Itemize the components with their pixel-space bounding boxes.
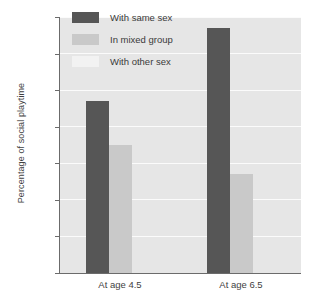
legend-entry-mixed-group: In mixed group bbox=[72, 28, 173, 50]
bar bbox=[86, 101, 109, 273]
y-tick-mark bbox=[55, 17, 60, 18]
legend-swatch-icon bbox=[72, 34, 99, 45]
x-axis-line bbox=[59, 273, 301, 274]
y-tick-mark bbox=[55, 200, 60, 201]
x-tick-label-group-1: At age 6.5 bbox=[181, 279, 301, 290]
bar-chart-figure: Percentage of social playtime 7060504030… bbox=[0, 0, 309, 295]
legend-label: With same sex bbox=[110, 12, 172, 23]
y-tick-mark bbox=[55, 90, 60, 91]
x-tick-label-text: At age 4.5 bbox=[98, 279, 141, 290]
gridline bbox=[60, 90, 301, 91]
legend-label: In mixed group bbox=[110, 34, 173, 45]
legend-swatch-icon bbox=[72, 56, 99, 67]
legend-entry-same-sex: With same sex bbox=[72, 6, 173, 28]
x-tick-label-text: At age 6.5 bbox=[219, 279, 262, 290]
y-axis-title: Percentage of social playtime bbox=[16, 48, 26, 238]
bar bbox=[109, 145, 132, 273]
legend-entry-other-sex: With other sex bbox=[72, 50, 173, 72]
y-tick-mark bbox=[55, 163, 60, 164]
y-tick-mark bbox=[55, 54, 60, 55]
x-tick-label-group-0: At age 4.5 bbox=[60, 279, 180, 290]
bar bbox=[207, 28, 230, 273]
legend: With same sex In mixed group With other … bbox=[72, 6, 173, 72]
y-tick-mark bbox=[55, 236, 60, 237]
y-tick-mark bbox=[55, 127, 60, 128]
legend-label: With other sex bbox=[110, 56, 171, 67]
legend-swatch-icon bbox=[72, 12, 99, 23]
bar bbox=[230, 174, 253, 273]
